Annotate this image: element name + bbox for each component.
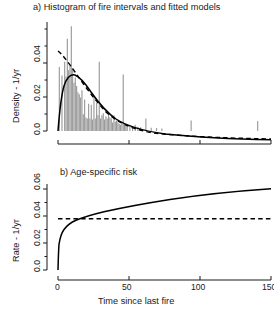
- panel-b-xtick-2: 100: [191, 282, 205, 292]
- panel-b-xtick-1: 50: [122, 282, 132, 292]
- panel-b-xtick-0: 0: [55, 282, 60, 292]
- panel-b-plot: [0, 0, 274, 312]
- figure-panel-container: a) Histogram of fire intervals and fitte…: [0, 0, 274, 312]
- panel-b-hazard-curve: [58, 189, 271, 270]
- panel-b-xlabel: Time since last fire: [98, 296, 174, 306]
- panel-b-xtick-3: 150: [262, 282, 274, 292]
